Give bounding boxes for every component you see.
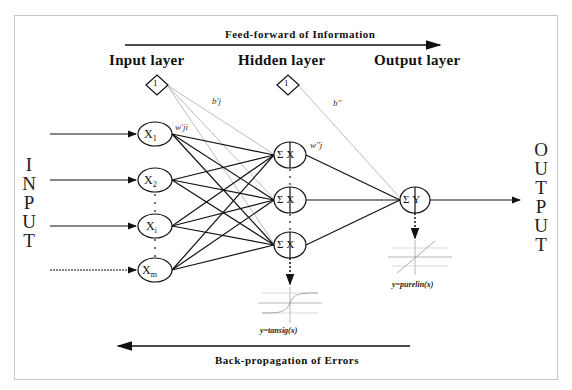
input-nodes bbox=[138, 122, 172, 282]
hidden-node-2: Σ X bbox=[277, 193, 294, 205]
purelin-plot bbox=[388, 240, 452, 275]
layer-label-input: Input layer bbox=[109, 52, 184, 69]
hidden-output-connections bbox=[306, 155, 400, 245]
weight-hidden-output-label: w''j bbox=[310, 140, 322, 150]
bias-input-value: 1 bbox=[153, 78, 158, 88]
bias-output-weight-label: b'' bbox=[333, 98, 341, 108]
weight-input-hidden-label: w'ji bbox=[175, 122, 188, 132]
input-side-label: INPUT bbox=[19, 155, 39, 250]
layer-label-output: Output layer bbox=[374, 52, 461, 69]
input-arrows bbox=[50, 134, 136, 270]
tansig-label: y=tansig(x) bbox=[260, 326, 297, 335]
input-node-1: X1 bbox=[144, 127, 157, 143]
back-propagation-label: Back-propagation of Errors bbox=[215, 354, 359, 366]
layer-label-hidden: Hidden layer bbox=[238, 52, 325, 69]
output-side-label: OUTPUT bbox=[531, 140, 551, 254]
input-node-2: X2 bbox=[144, 173, 157, 189]
input-hidden-connections bbox=[172, 134, 274, 270]
purelin-label: y=purelin(x) bbox=[392, 280, 433, 289]
bias-hidden-value: 1 bbox=[284, 78, 289, 88]
input-node-m: Xm bbox=[142, 263, 157, 279]
bias-hidden-weight-label: b'j bbox=[212, 96, 221, 106]
feed-forward-label: Feed-forward of Information bbox=[225, 28, 375, 40]
hidden-node-3: Σ X bbox=[277, 238, 294, 250]
input-node-i: Xi bbox=[146, 219, 157, 235]
hidden-node-1: Σ X bbox=[277, 148, 294, 160]
output-node-label: Σ Y bbox=[403, 193, 420, 205]
tansig-plot bbox=[258, 287, 322, 323]
